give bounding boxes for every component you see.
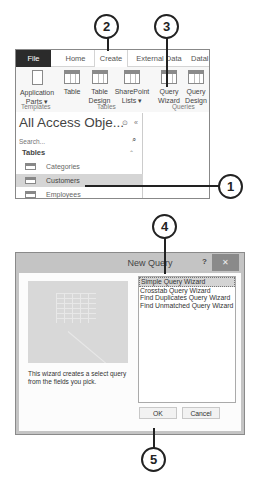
- application-parts-button[interactable]: Application Parts ▾: [18, 70, 56, 106]
- group-label-queries: Queries: [172, 103, 195, 110]
- nav-item-label: Employees: [46, 191, 81, 198]
- callout-2-line: [107, 37, 109, 51]
- dialog-title: New Query: [16, 253, 244, 273]
- sharepoint-lists-button[interactable]: SharePoint Lists ▾: [114, 70, 150, 105]
- query-design-button[interactable]: Query Design: [183, 70, 209, 105]
- nav-item-label: Categories: [46, 163, 80, 170]
- query-wizard-button[interactable]: Query Wizard: [156, 70, 182, 105]
- tab-file[interactable]: File: [16, 50, 51, 67]
- callout-4-line: [164, 237, 166, 274]
- section-tables[interactable]: Tables: [22, 148, 45, 157]
- access-window: File Home Create External Data Datal App…: [15, 49, 210, 199]
- table-design-icon: [92, 70, 108, 84]
- button-label: Query: [156, 87, 182, 96]
- nav-menu-icon[interactable]: ⊙: [122, 119, 128, 127]
- callout-3: 3: [154, 14, 179, 39]
- callout-2: 2: [94, 14, 119, 39]
- dialog-body: This wizard creates a select query from …: [19, 273, 241, 431]
- tab-external-data[interactable]: External Data: [134, 50, 184, 67]
- table-icon: [25, 177, 36, 184]
- callout-1-line: [85, 185, 220, 187]
- option-find-duplicates-query-wizard[interactable]: Find Duplicates Query Wizard: [139, 294, 235, 302]
- wizard-description: This wizard creates a select query from …: [28, 370, 133, 386]
- group-label-tables: Tables: [97, 103, 116, 110]
- callout-1: 1: [218, 174, 243, 199]
- nav-item-employees[interactable]: Employees: [16, 188, 143, 199]
- close-button[interactable]: ✕: [212, 254, 239, 271]
- sharepoint-lists-icon: [124, 70, 140, 84]
- option-crosstab-query-wizard[interactable]: Crosstab Query Wizard: [139, 287, 235, 295]
- query-wizard-icon: [161, 70, 177, 84]
- section-collapse-icon[interactable]: ⌃: [129, 149, 134, 156]
- new-query-dialog: New Query ? ✕ This wizard creates a sele…: [15, 252, 245, 435]
- preview-grid: [56, 293, 96, 323]
- table-button[interactable]: Table: [61, 70, 83, 96]
- option-find-unmatched-query-wizard[interactable]: Find Unmatched Query Wizard: [139, 302, 235, 310]
- button-label: Table: [61, 87, 83, 96]
- table-icon: [64, 70, 80, 84]
- ok-button[interactable]: OK: [139, 407, 177, 419]
- tab-database[interactable]: Datal: [191, 50, 210, 67]
- tab-create[interactable]: Create: [94, 50, 128, 68]
- query-design-icon: [188, 70, 204, 84]
- button-label: Table: [87, 87, 112, 96]
- preview-decoration: [68, 331, 128, 363]
- button-label: SharePoint: [114, 87, 150, 96]
- table-icon: [25, 163, 36, 170]
- application-parts-icon: [32, 70, 43, 85]
- nav-item-categories[interactable]: Categories: [16, 160, 143, 173]
- callout-3-line: [166, 37, 168, 87]
- option-simple-query-wizard[interactable]: Simple Query Wizard: [139, 277, 235, 287]
- button-label: Lists ▾: [114, 96, 150, 105]
- table-design-button[interactable]: Table Design: [87, 70, 112, 105]
- nav-pane-title[interactable]: All Access Obje...: [19, 115, 124, 130]
- callout-4: 4: [152, 214, 177, 239]
- ribbon-tabs: File Home Create External Data Datal: [16, 50, 209, 67]
- button-label: Application: [18, 88, 56, 97]
- tab-home[interactable]: Home: [58, 50, 93, 67]
- search-input[interactable]: [19, 136, 139, 147]
- query-wizard-list[interactable]: Simple Query Wizard Crosstab Query Wizar…: [138, 276, 236, 403]
- cancel-button[interactable]: Cancel: [182, 407, 220, 419]
- button-label: Query: [183, 87, 209, 96]
- search-icon[interactable]: ⌕: [132, 135, 136, 145]
- ribbon: Application Parts ▾ Table Table Design S…: [16, 67, 209, 112]
- callout-5: 5: [141, 447, 166, 472]
- collapse-icon[interactable]: «: [134, 119, 138, 126]
- wizard-preview-image: [28, 281, 128, 363]
- nav-item-label: Customers: [46, 177, 80, 184]
- help-icon[interactable]: ?: [202, 257, 207, 266]
- table-icon: [25, 191, 36, 198]
- group-label-templates: Templates: [21, 103, 51, 110]
